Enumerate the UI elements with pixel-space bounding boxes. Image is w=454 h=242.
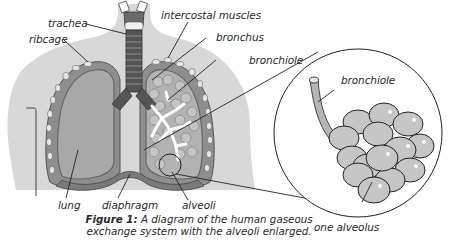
label-trachea: trachea [48, 17, 88, 29]
caption-line2: exchange system with the alveoli enlarge… [86, 225, 311, 237]
label-bronchiole-inset: bronchiole [341, 74, 395, 86]
label-bronchus: bronchus [216, 31, 264, 43]
gas-exchange-diagram: trachea ribcage intercostal muscles bron… [0, 0, 454, 242]
caption-line1: A diagram of the human gaseous [141, 213, 313, 225]
label-lung: lung [58, 199, 81, 211]
figure-caption: Figure 1: A diagram of the human gaseous… [64, 213, 334, 237]
label-alveoli: alveoli [182, 199, 216, 211]
label-bronchiole-main: bronchiole [249, 54, 303, 66]
caption-prefix: Figure 1: [85, 213, 137, 225]
label-intercostal-muscles: intercostal muscles [161, 9, 261, 21]
label-diaphragm: diaphragm [102, 199, 158, 211]
label-ribcage: ribcage [29, 33, 68, 45]
